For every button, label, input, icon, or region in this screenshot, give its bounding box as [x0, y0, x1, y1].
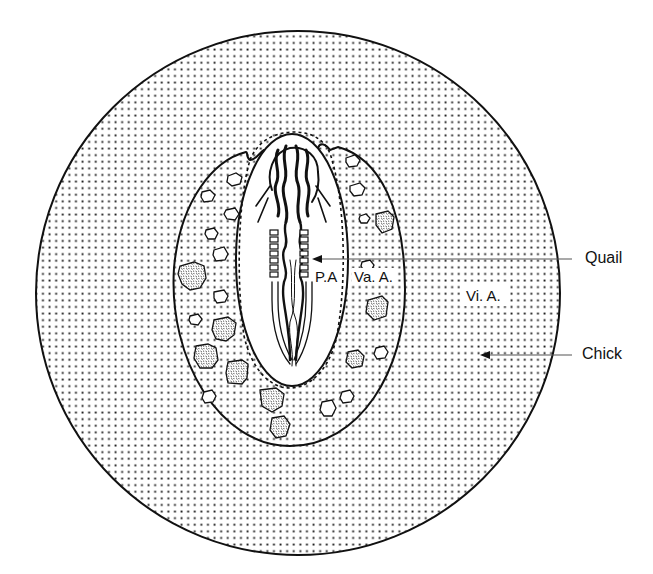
chick-label: Chick [582, 345, 622, 363]
area-pellucida-label: P.A [313, 268, 339, 285]
quail-label: Quail [585, 249, 622, 267]
area-vasculosa-label: Va. A. [352, 268, 395, 285]
chimera-diagram [0, 0, 653, 574]
area-vitellina-label: Vi. A. [460, 285, 507, 306]
